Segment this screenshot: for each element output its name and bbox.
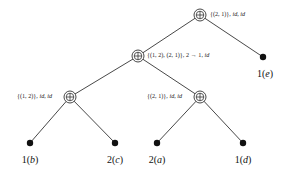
leaf-label-e: 1(e) (257, 68, 273, 79)
edge-left-leaf-b (30, 97, 70, 143)
edge-root-leaf-e (200, 15, 263, 57)
oplus-node-right (194, 91, 206, 103)
label-set: {(1, 2), (2, 1)}, 2 → 1, (147, 51, 205, 58)
edge-right-leaf-a (157, 97, 200, 143)
label-f2: id (240, 10, 245, 17)
leaf-var: c (115, 154, 119, 165)
label-set: {(1, 2)}, (17, 92, 39, 99)
leaf-var: a (157, 154, 162, 165)
node-label-mid: {(1, 2), (2, 1)}, 2 → 1, id (147, 51, 209, 58)
node-label-right: {(2, 1)}, id, id (147, 92, 182, 99)
leaf-num: 2 (107, 154, 112, 165)
leaf-num: 2 (149, 154, 154, 165)
edge-mid-right (138, 56, 200, 97)
leaf-node-a (154, 140, 160, 146)
leaf-node-d (240, 140, 246, 146)
edge-right-leaf-d (200, 97, 243, 143)
leaf-num: 1 (235, 154, 240, 165)
leaf-var: b (30, 154, 35, 165)
label-set: {(2, 1)}, (210, 10, 232, 17)
leaf-var: d (243, 154, 248, 165)
node-label-left: {(1, 2)}, id, id (17, 92, 52, 99)
label-f2: id (177, 92, 182, 99)
leaf-label-a: 2(a) (149, 154, 166, 165)
leaf-label-b: 1(b) (22, 154, 39, 165)
label-f2: id (205, 51, 210, 58)
tree-edges (30, 15, 263, 143)
tree-diagram (0, 0, 285, 178)
label-set: {(2, 1)}, (147, 92, 169, 99)
oplus-node-left (64, 91, 76, 103)
leaf-node-c (112, 140, 118, 146)
leaf-label-c: 2(c) (107, 154, 123, 165)
label-f2: id (47, 92, 52, 99)
edge-mid-left (70, 56, 138, 97)
node-label-root: {(2, 1)}, id, id (210, 10, 245, 17)
leaf-node-b (27, 140, 33, 146)
oplus-node-mid (132, 50, 144, 62)
leaf-num: 1 (22, 154, 27, 165)
leaf-node-e (260, 54, 266, 60)
leaf-var: e (265, 68, 269, 79)
leaf-label-d: 1(d) (235, 154, 252, 165)
edge-left-leaf-c (70, 97, 115, 143)
oplus-node-root (194, 9, 206, 21)
edge-root-mid (138, 15, 200, 56)
leaf-num: 1 (257, 68, 262, 79)
